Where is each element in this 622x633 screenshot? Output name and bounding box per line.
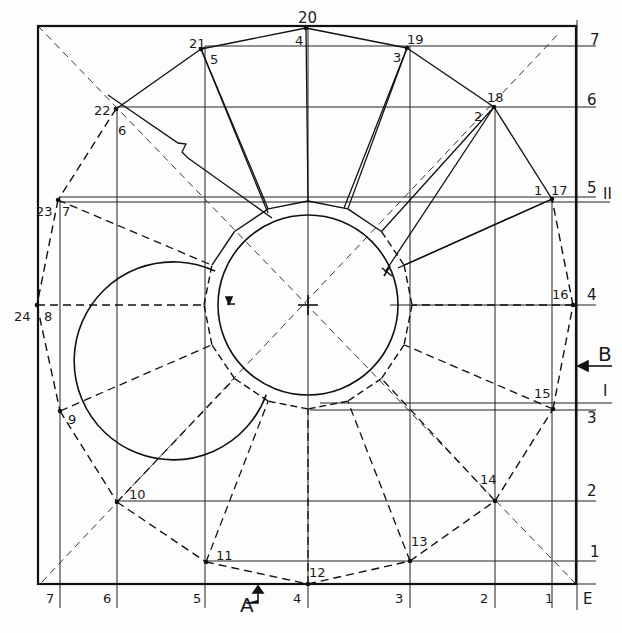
right-scale-label-2: 2 <box>587 484 597 499</box>
inner-polygon-edge <box>404 265 412 305</box>
radial-line-18-inner <box>385 107 494 272</box>
bottom-scale-label-6: 6 <box>103 592 111 605</box>
point-label-5: 5 <box>210 53 218 66</box>
point-label-21: 21 <box>189 37 206 50</box>
radial-line-21-inner <box>201 49 268 213</box>
right-scale-label-7: 7 <box>590 33 600 48</box>
inner-polygon-edge <box>212 345 235 379</box>
polygon-edge-18-19 <box>407 48 494 107</box>
section-arrow-B-head <box>578 361 588 371</box>
point-label-15: 15 <box>534 387 551 400</box>
point-label-1: 1 <box>534 184 542 197</box>
radial-line-11 <box>206 401 268 562</box>
right-scale-label-II: II <box>603 187 612 202</box>
polygon-edge-17-18 <box>494 107 552 199</box>
point-label-20: 20 <box>298 11 317 26</box>
radial-line-19-inner <box>344 48 407 208</box>
radial-line-13 <box>348 401 410 561</box>
point-label-14: 14 <box>480 473 497 486</box>
section-arrows <box>246 361 612 603</box>
bottom-scale-label-4: 4 <box>293 592 301 605</box>
radial-line-15 <box>404 345 553 409</box>
point-label-19: 19 <box>407 33 424 46</box>
bottom-scale-label-2: 2 <box>480 592 488 605</box>
right-scale-label-6: 6 <box>587 93 597 108</box>
break-line <box>108 95 272 218</box>
point-label-4: 4 <box>295 34 303 47</box>
point-label-13: 13 <box>411 535 428 548</box>
radial-line-18 <box>382 107 495 232</box>
inner-polygon-edge <box>268 401 308 409</box>
bottom-scale-label-1: 1 <box>545 592 553 605</box>
polygon-edge-13-14 <box>410 501 495 561</box>
polygon-edge-10-11 <box>117 502 206 562</box>
right-scale-label-4: 4 <box>587 288 597 303</box>
vertex-22 <box>114 107 117 110</box>
right-scale-label-5: 5 <box>587 181 597 196</box>
point-label-18: 18 <box>487 91 504 104</box>
point-label-17: 17 <box>551 184 568 197</box>
right-scale-label-I: I <box>603 384 607 399</box>
outer-24-point-polygon <box>35 26 574 585</box>
point-label-2: 2 <box>474 110 482 123</box>
point-label-9: 9 <box>68 413 76 426</box>
inner-polygon-edge <box>348 209 382 232</box>
point-label-3: 3 <box>393 51 401 64</box>
point-label-23: 23 <box>36 205 53 218</box>
inner-polygon-edge <box>348 379 382 402</box>
construction-grid <box>38 20 612 610</box>
radial-line-23 <box>58 200 212 265</box>
polygon-edge-19-20 <box>306 28 407 48</box>
right-scale-label-1: 1 <box>590 545 600 560</box>
polygon-edge-21-22 <box>116 49 201 109</box>
polygon-edge-15-16 <box>553 305 573 409</box>
radial-line-17-inner <box>398 199 552 268</box>
right-scale-label-B: B <box>598 344 612 364</box>
arc-arrowhead <box>226 297 232 304</box>
inner-polygon-edge <box>308 401 348 409</box>
point-label-6: 6 <box>118 124 126 137</box>
inner-polygon-edge <box>212 232 235 266</box>
point-label-24: 24 <box>14 310 31 323</box>
bottom-scale-label-7: 7 <box>46 592 54 605</box>
development-layout-drawing <box>0 0 622 633</box>
radial-line-14 <box>382 379 496 502</box>
section-label-A: A <box>240 595 254 615</box>
point-label-22: 22 <box>94 104 111 117</box>
drawing-sheet: 2042151932261822371172481691510141113127… <box>0 0 622 633</box>
point-label-7: 7 <box>62 205 70 218</box>
point-label-10: 10 <box>129 488 146 501</box>
bottom-scale-label-3: 3 <box>395 592 403 605</box>
polygon-edge-11-12 <box>206 562 308 584</box>
polygon-edge-22-23 <box>58 109 116 200</box>
point-label-11: 11 <box>216 549 233 562</box>
center-circles <box>74 215 398 460</box>
point-label-12: 12 <box>309 566 326 579</box>
point-label-16: 16 <box>552 288 569 301</box>
inner-polygon-edge <box>235 379 269 402</box>
inner-polygon-edge <box>382 345 405 379</box>
bottom-scale-label-5: 5 <box>193 592 201 605</box>
point-label-8: 8 <box>44 310 52 323</box>
polygon-edge-14-15 <box>495 409 553 501</box>
inner-polygon-edge <box>404 305 412 345</box>
bottom-scale-label-E: E <box>583 592 592 607</box>
right-scale-label-3: 3 <box>587 411 597 426</box>
section-arrow-A <box>253 586 263 600</box>
